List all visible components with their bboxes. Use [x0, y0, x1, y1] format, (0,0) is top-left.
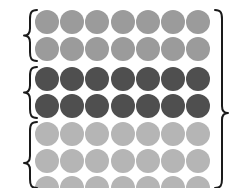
- dot-g3-r3-c4: [111, 176, 135, 188]
- dot-g3-r3-c3: [85, 176, 109, 188]
- dot-g1-r2-c5: [136, 37, 160, 61]
- dot-g1-r1-c2: [60, 10, 84, 34]
- dot-g3-r2-c6: [161, 149, 185, 173]
- dot-g3-r3-c2: [60, 176, 84, 188]
- dot-g3-r1-c7: [186, 122, 210, 146]
- dot-g3-r2-c3: [85, 149, 109, 173]
- dot-g3-r2-c1: [35, 149, 59, 173]
- dot-g1-r2-c4: [111, 37, 135, 61]
- dot-g1-r1-c3: [85, 10, 109, 34]
- dot-g3-r3-c1: [35, 176, 59, 188]
- dot-g2-r2-c1: [35, 94, 59, 118]
- dot-g3-r3-c7: [186, 176, 210, 188]
- dot-g2-r1-c3: [85, 67, 109, 91]
- dot-g2-r1-c5: [136, 67, 160, 91]
- right-outer-brace: [215, 10, 228, 188]
- dot-g3-r1-c5: [136, 122, 160, 146]
- dot-g2-r1-c2: [60, 67, 84, 91]
- dot-g2-r2-c2: [60, 94, 84, 118]
- dot-g3-r1-c2: [60, 122, 84, 146]
- dot-g3-r2-c7: [186, 149, 210, 173]
- dot-g3-r3-c6: [161, 176, 185, 188]
- dot-g2-r2-c6: [161, 94, 185, 118]
- dot-g1-r1-c4: [111, 10, 135, 34]
- dot-g1-r2-c1: [35, 37, 59, 61]
- dot-g3-r1-c6: [161, 122, 185, 146]
- dot-g2-r1-c6: [161, 67, 185, 91]
- dot-g2-r2-c7: [186, 94, 210, 118]
- dot-g2-r1-c1: [35, 67, 59, 91]
- dot-g2-r2-c5: [136, 94, 160, 118]
- dot-g1-r1-c6: [161, 10, 185, 34]
- dot-g1-r2-c6: [161, 37, 185, 61]
- dot-g1-r1-c5: [136, 10, 160, 34]
- dot-g2-r1-c7: [186, 67, 210, 91]
- dot-g2-r2-c3: [85, 94, 109, 118]
- dot-g1-r2-c3: [85, 37, 109, 61]
- dot-g1-r1-c1: [35, 10, 59, 34]
- dot-g3-r1-c4: [111, 122, 135, 146]
- dot-g3-r1-c1: [35, 122, 59, 146]
- dot-g3-r2-c2: [60, 149, 84, 173]
- dot-g3-r2-c5: [136, 149, 160, 173]
- dot-g1-r2-c7: [186, 37, 210, 61]
- dot-g1-r2-c2: [60, 37, 84, 61]
- dot-g3-r2-c4: [111, 149, 135, 173]
- dot-g2-r2-c4: [111, 94, 135, 118]
- dot-g1-r1-c7: [186, 10, 210, 34]
- dot-g2-r1-c4: [111, 67, 135, 91]
- dot-g3-r1-c3: [85, 122, 109, 146]
- dot-g3-r3-c5: [136, 176, 160, 188]
- figure-canvas: [0, 0, 240, 188]
